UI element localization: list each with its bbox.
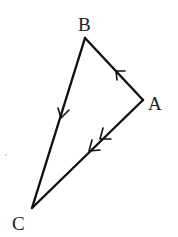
vertex-label-b: B (78, 14, 91, 35)
speck (5, 154, 7, 156)
edge-a-to-b (85, 38, 143, 100)
vertex-label-a: A (148, 93, 162, 114)
vertex-label-c: C (12, 213, 25, 234)
vector-triangle-diagram: B A C (0, 0, 178, 237)
